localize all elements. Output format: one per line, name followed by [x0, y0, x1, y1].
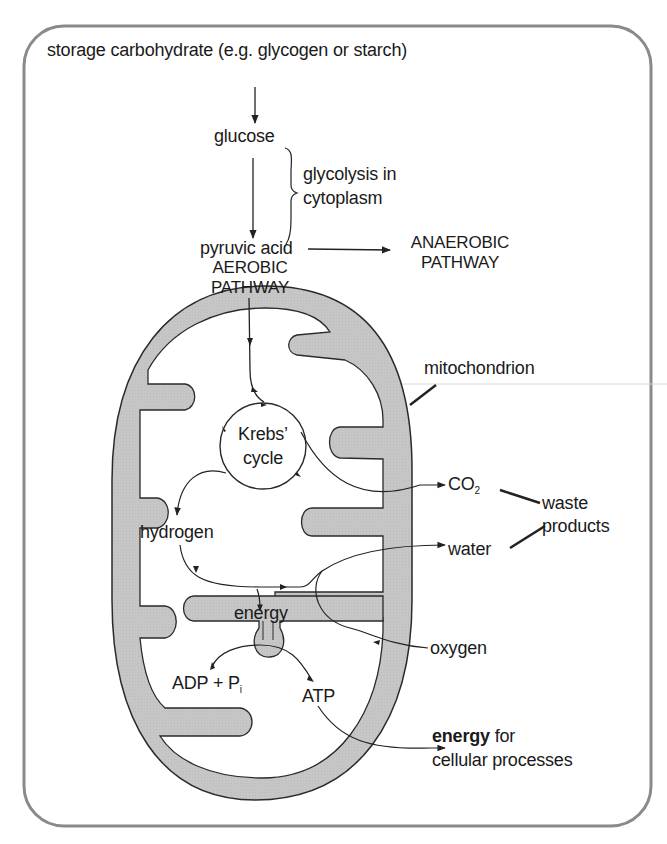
waste-label-line1: waste — [542, 493, 588, 513]
anaerobic-pathway-label-line2: PATHWAY — [400, 253, 520, 273]
krebs-cycle-label-line2: cycle — [222, 448, 304, 468]
diagram-canvas — [0, 0, 667, 844]
waste-label-line2: products — [542, 516, 609, 536]
krebs-cycle-circle — [220, 403, 306, 489]
mitochondrion-shape — [112, 286, 412, 800]
glycolysis-label-line2: cytoplasm — [303, 188, 382, 208]
aerobic-pathway-label-line2: PATHWAY — [205, 278, 295, 298]
water-label: water — [448, 539, 491, 559]
storage-carbohydrate-label: storage carbohydrate (e.g. glycogen or s… — [47, 40, 407, 60]
energy-inner-label: energy — [234, 603, 288, 623]
oxygen-label: oxygen — [430, 638, 487, 658]
atp-label: ATP — [302, 686, 335, 706]
pyruvic-acid-label: pyruvic acid — [200, 238, 293, 258]
mitochondrion-label: mitochondrion — [424, 358, 534, 378]
co2-label: CO2 — [448, 474, 480, 501]
krebs-cycle-label-line1: Krebs’ — [222, 424, 304, 444]
hydrogen-label: hydrogen — [140, 522, 213, 542]
glucose-label: glucose — [214, 126, 275, 146]
adp-pi-label: ADP + Pi — [172, 673, 242, 700]
cellular-processes-label: cellular processes — [432, 750, 572, 770]
glycolysis-label-line1: glycolysis in — [303, 164, 396, 184]
anaerobic-pathway-label-line1: ANAEROBIC — [400, 233, 520, 253]
energy-for-label: energy for — [432, 726, 515, 746]
aerobic-pathway-label-line1: AEROBIC — [205, 258, 295, 278]
